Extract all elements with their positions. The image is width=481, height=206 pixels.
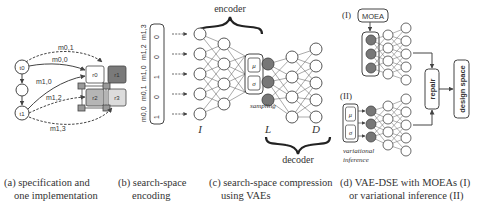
panel-d-vae-dse: (I) MOEA (II) μ σ bbox=[340, 9, 469, 164]
vector-value-3: 0 bbox=[153, 55, 160, 59]
caption-a: (a) specification and one implementation bbox=[4, 176, 98, 202]
layer-label-L: L bbox=[264, 123, 271, 135]
caption-a-line1: (a) specification and bbox=[4, 177, 90, 188]
caption-d-line2: or variational inference (II) bbox=[340, 189, 470, 202]
sampling-arrows-II bbox=[358, 111, 365, 136]
encoder-hidden-layer bbox=[218, 38, 230, 110]
caption-c: (c) search-space compression using VAEs bbox=[209, 176, 333, 202]
encoder-brace bbox=[198, 17, 262, 34]
vector-label-m13: m1,3 bbox=[140, 24, 147, 40]
arrow-II-to-repair bbox=[413, 110, 432, 125]
caption-d-line1: (d) VAE-DSE with MOEAs (I) bbox=[340, 177, 470, 188]
vector-value-0: 1 bbox=[153, 115, 160, 119]
caption-c-line1: (c) search-space compression bbox=[209, 177, 333, 188]
vector-label-m12: m1,2 bbox=[140, 44, 147, 60]
decoder-brace bbox=[266, 137, 330, 154]
layer-label-D: D bbox=[311, 123, 320, 135]
variational-label-line1: variational bbox=[343, 147, 374, 155]
caption-a-line2: one implementation bbox=[4, 189, 98, 202]
latent-layer bbox=[262, 58, 274, 106]
decoder-label: decoder bbox=[282, 154, 314, 165]
variational-label-line2: inference bbox=[343, 156, 369, 164]
resource-label-r0: r0 bbox=[92, 72, 98, 78]
task-label-t0: t0 bbox=[19, 65, 25, 71]
moea-label: MOEA bbox=[362, 12, 384, 21]
vector-label-m01: m0,1 bbox=[140, 85, 147, 101]
task-node-comm bbox=[16, 84, 28, 96]
label-II: (II) bbox=[340, 91, 352, 101]
vector-label-m00: m0,0 bbox=[140, 106, 147, 122]
mapping-label-m01: m0,1 bbox=[58, 44, 74, 51]
panel-a-specification: t0 t1 r0 r1 r2 r3 m0,1 m0,0 m1 bbox=[15, 44, 126, 132]
sampling-label: sampling bbox=[250, 102, 276, 110]
encoder-label: encoder bbox=[214, 3, 246, 14]
mu-label: μ bbox=[252, 62, 256, 70]
vector-labels: m0,0 m0,1 m1,0 m1,2 m1,3 bbox=[140, 24, 147, 122]
input-layer bbox=[194, 28, 206, 120]
caption-c-line2: using VAEs bbox=[209, 189, 333, 202]
vector-value-4: 0 bbox=[153, 35, 160, 39]
mapping-label-m00: m0,0 bbox=[52, 56, 68, 63]
decoder-hidden-layer bbox=[286, 51, 298, 123]
panel-b-encoding: m0,0 m0,1 m1,0 m1,2 m1,3 1 0 1 0 0 bbox=[140, 24, 187, 124]
resource-label-r3: r3 bbox=[114, 95, 120, 101]
mapping-label-m12: m1,2 bbox=[46, 94, 62, 101]
label-I: (I) bbox=[342, 10, 351, 20]
sigma-label: σ bbox=[252, 80, 256, 88]
repair-label: repair bbox=[428, 79, 437, 100]
caption-b-line2: encoding bbox=[118, 189, 187, 202]
mapping-label-m13: m1,3 bbox=[50, 125, 66, 132]
resource-label-r2: r2 bbox=[92, 95, 98, 101]
layer-label-I: I bbox=[197, 123, 203, 135]
caption-b-line1: (b) search-space bbox=[118, 177, 187, 188]
panel-c-vae: encoder bbox=[194, 3, 330, 165]
vector-value-1: 0 bbox=[153, 95, 160, 99]
output-layer bbox=[310, 43, 322, 123]
caption-b: (b) search-space encoding bbox=[118, 176, 187, 202]
mapping-edge-m00 bbox=[29, 64, 85, 70]
task-label-t1: t1 bbox=[19, 111, 25, 117]
design-space-label: design space bbox=[458, 65, 467, 113]
input-arrows bbox=[172, 34, 187, 114]
vector-value-2: 1 bbox=[153, 75, 160, 79]
mapping-edge-m13 bbox=[29, 108, 112, 124]
caption-d: (d) VAE-DSE with MOEAs (I) or variationa… bbox=[340, 176, 470, 202]
vector-label-m10: m1,0 bbox=[140, 65, 147, 81]
resource-label-r1: r1 bbox=[114, 72, 120, 78]
arrow-I-to-repair bbox=[413, 53, 432, 68]
mapping-label-m10: m1,0 bbox=[36, 78, 52, 85]
